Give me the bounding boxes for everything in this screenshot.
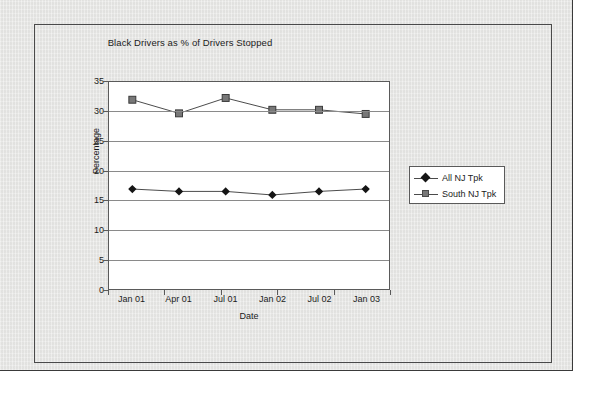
gridline: [109, 141, 389, 142]
y-tick-label: 15: [80, 194, 104, 206]
x-axis-title: Date: [108, 311, 390, 321]
data-point-diamond-marker: [128, 185, 136, 193]
data-point-square-marker: [129, 96, 136, 103]
legend-square-marker-icon: [414, 188, 438, 200]
y-tick-mark: [103, 260, 108, 261]
legend-label: South NJ Tpk: [438, 189, 496, 199]
y-tick-label: 25: [80, 135, 104, 147]
y-tick-label: 20: [80, 165, 104, 177]
chart-legend: All NJ Tpk South NJ Tpk: [409, 166, 505, 204]
data-point-diamond-marker: [315, 187, 323, 195]
chart-title: Black Drivers as % of Drivers Stopped: [40, 37, 340, 48]
legend-item-south-nj-tpk: South NJ Tpk: [410, 186, 504, 202]
data-point-diamond-marker: [361, 185, 369, 193]
data-point-square-marker: [222, 94, 229, 101]
y-tick-label: 0: [80, 284, 104, 296]
y-tick-label: 30: [80, 105, 104, 117]
y-axis-tick-labels: 05101520253035: [80, 74, 104, 297]
gridline: [109, 230, 389, 231]
y-tick-mark: [103, 81, 108, 82]
gridline: [109, 111, 389, 112]
data-point-square-marker: [269, 106, 276, 113]
y-tick-label: 35: [80, 75, 104, 87]
data-point-diamond-marker: [221, 187, 229, 195]
plot-series-svg: [109, 82, 389, 289]
legend-item-all-nj-tpk: All NJ Tpk: [410, 170, 504, 186]
x-tick-mark: [164, 290, 165, 295]
x-tick-mark: [221, 290, 222, 295]
series-line: [132, 189, 365, 195]
plot-area: [108, 81, 390, 290]
x-tick-label: Jan 03: [337, 294, 397, 304]
gridline: [109, 200, 389, 201]
y-tick-label: 5: [80, 254, 104, 266]
y-tick-label: 10: [80, 224, 104, 236]
data-point-square-marker: [316, 106, 323, 113]
gridline: [109, 260, 389, 261]
data-point-diamond-marker: [268, 191, 276, 199]
y-tick-mark: [103, 171, 108, 172]
x-tick-mark: [277, 290, 278, 295]
x-tick-mark: [108, 290, 109, 295]
y-tick-mark: [103, 141, 108, 142]
gridline: [109, 171, 389, 172]
y-tick-mark: [103, 230, 108, 231]
y-tick-mark: [103, 200, 108, 201]
legend-diamond-marker-icon: [414, 172, 438, 184]
data-point-diamond-marker: [175, 187, 183, 195]
x-axis-tick-labels: Jan 01Apr 01Jul 01Jan 02Jul 02Jan 03: [108, 294, 390, 308]
x-tick-mark: [390, 290, 391, 295]
x-tick-mark: [334, 290, 335, 295]
legend-label: All NJ Tpk: [438, 173, 483, 183]
y-tick-mark: [103, 111, 108, 112]
